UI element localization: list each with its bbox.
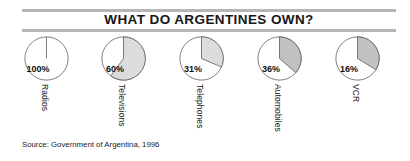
category-label-text: Radios: [40, 84, 50, 111]
category-label-automobiles: Automobiles: [241, 84, 317, 134]
label-rotation-wrapper: Radios: [8, 84, 84, 134]
pie-cell-telephones: 31%: [163, 34, 239, 86]
pie-value-vcr: 16%: [325, 64, 373, 74]
pie-value-automobiles: 36%: [247, 64, 295, 74]
category-label-text: Automobiles: [273, 84, 283, 132]
pie-svg-televisions: [100, 35, 147, 82]
category-label-row: Radios Televisions Telephones Automobile…: [0, 84, 410, 134]
pie-chart-telephones: [178, 35, 225, 82]
title-rule-bottom: [22, 29, 396, 32]
category-label-radios: Radios: [8, 84, 84, 134]
pie-cell-radios: 100%: [8, 34, 84, 86]
category-label-telephones: Telephones: [163, 84, 239, 134]
label-rotation-wrapper: Automobiles: [241, 84, 317, 134]
pie-chart-row: 100% 60% 31%: [0, 34, 410, 86]
pie-chart-televisions: [100, 35, 147, 82]
category-label-televisions: Televisions: [85, 84, 161, 134]
category-label-text: Televisions: [117, 84, 127, 127]
pie-svg-telephones: [178, 35, 225, 82]
pie-value-telephones: 31%: [169, 64, 217, 74]
category-label-vcr: VCR: [319, 84, 395, 134]
pie-chart-radios: [23, 35, 70, 82]
pie-svg-automobiles: [256, 35, 303, 82]
category-label-text: Telephones: [195, 84, 205, 128]
label-rotation-wrapper: VCR: [319, 84, 395, 134]
pie-svg-vcr: [334, 35, 381, 82]
pie-svg-radios: [23, 35, 70, 82]
page-title: WHAT DO ARGENTINES OWN?: [22, 11, 396, 28]
pie-cell-televisions: 60%: [85, 34, 161, 86]
pie-chart-automobiles: [256, 35, 303, 82]
pie-cell-vcr: 16%: [319, 34, 395, 86]
infographic-root: WHAT DO ARGENTINES OWN? 100% 60%: [0, 0, 410, 161]
pie-value-radios: 100%: [14, 64, 62, 74]
pie-value-televisions: 60%: [91, 64, 139, 74]
pie-chart-vcr: [334, 35, 381, 82]
label-rotation-wrapper: Televisions: [85, 84, 161, 134]
category-label-text: VCR: [351, 84, 361, 102]
label-rotation-wrapper: Telephones: [163, 84, 239, 134]
pie-cell-automobiles: 36%: [241, 34, 317, 86]
source-note: Source: Government of Argentina, 1996: [22, 140, 159, 149]
